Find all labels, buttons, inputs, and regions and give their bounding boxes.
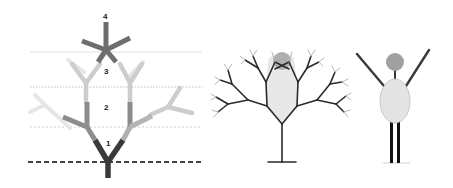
branching-levels-panel: 4 3 2 1 <box>28 12 204 178</box>
level2-branches <box>63 102 130 127</box>
left-arm <box>357 54 384 86</box>
figure-body <box>380 79 410 123</box>
level1-upper-right <box>123 127 130 140</box>
tree-head-circle <box>273 52 291 70</box>
level-label-2: 2 <box>104 103 109 112</box>
figure-head <box>386 53 404 71</box>
fractal-tree-panel <box>211 50 351 162</box>
level-label-1: 1 <box>106 139 111 148</box>
level-label-4: 4 <box>103 12 108 21</box>
diagram-svg: 4 3 2 1 <box>0 0 453 188</box>
left-leg <box>390 120 393 163</box>
level-label-3: 3 <box>104 67 109 76</box>
right-arm <box>406 50 429 86</box>
level2-right-branch <box>130 116 152 127</box>
stick-figure-panel <box>357 50 429 163</box>
right-leg <box>397 120 400 163</box>
top-star-icon <box>82 22 130 62</box>
level1-upper <box>87 127 95 140</box>
diagram-canvas: 4 3 2 1 <box>0 0 453 188</box>
